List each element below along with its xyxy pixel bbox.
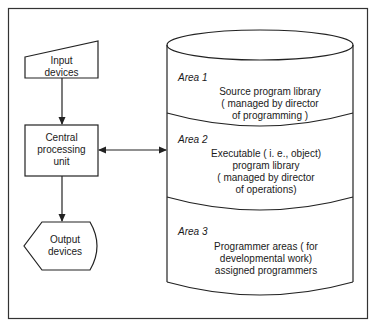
area-2-description: Executable ( i. e., object) program libr… [196, 148, 336, 196]
cpu-line1: Central [25, 132, 98, 144]
cpu-line2: processing [25, 144, 98, 156]
cpu-label: Central processing unit [25, 132, 98, 168]
area-1-line1: Source program library [200, 86, 340, 98]
area-1-line2: ( managed by director [200, 98, 340, 110]
area-3-title: Area 3 [178, 226, 207, 238]
area-1-line3: of programming ) [200, 110, 340, 122]
area-2-line1: Executable ( i. e., object) [196, 148, 336, 160]
area-1-title: Area 1 [178, 72, 207, 84]
area-3-line2: developmental work) [196, 253, 336, 265]
output-line2: devices [30, 246, 100, 258]
area-3-line3: assigned programmers [196, 265, 336, 277]
area-2-line2: program library [196, 160, 336, 172]
area-3-line1: Programmer areas ( for [196, 241, 336, 253]
output-line1: Output [30, 234, 100, 246]
input-line2: devices [25, 67, 98, 79]
input-line1: Input [25, 55, 98, 67]
area-2-title: Area 2 [178, 134, 207, 146]
input-devices-label: Input devices [25, 55, 98, 79]
output-devices-label: Output devices [30, 234, 100, 258]
cpu-line3: unit [25, 156, 98, 168]
area-3-description: Programmer areas ( for developmental wor… [196, 241, 336, 277]
area-2-line3: ( managed by director [196, 172, 336, 184]
area-2-line4: of operations) [196, 184, 336, 196]
area-1-description: Source program library ( managed by dire… [200, 86, 340, 122]
